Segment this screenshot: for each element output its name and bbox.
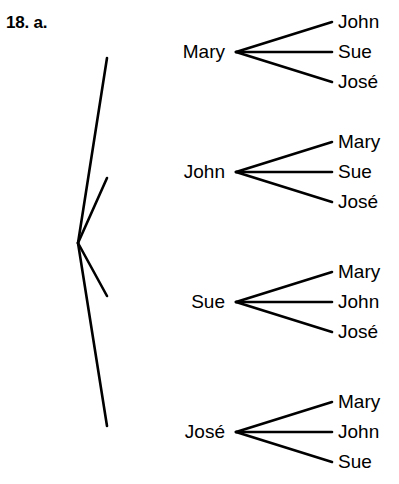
leaf-label-1-1: Sue [338,162,372,181]
level1-label-3: José [105,422,225,441]
branch-edge-1-0 [236,142,332,172]
branch-edge-1-2 [236,172,332,202]
branch-edge-2-0 [236,272,332,302]
leaf-label-0-0: John [338,12,379,31]
leaf-label-0-1: Sue [338,42,372,61]
leaf-label-3-0: Mary [338,392,380,411]
leaf-label-1-2: José [338,192,378,211]
leaf-label-3-1: John [338,422,379,441]
leaf-label-1-0: Mary [338,132,380,151]
branch-edge-3-0 [236,402,332,432]
level1-label-1: John [105,162,225,181]
root-edge-0 [78,58,107,243]
level1-label-0: Mary [105,42,225,61]
leaf-label-2-0: Mary [338,262,380,281]
leaf-label-2-1: John [338,292,379,311]
branch-edge-3-2 [236,432,332,462]
leaf-label-0-2: José [338,72,378,91]
level1-label-2: Sue [105,292,225,311]
branch-edge-2-2 [236,302,332,332]
permutation-tree-diagram: 18. a. MaryJohnSueJoséJohnMarySueJoséSue… [0,0,399,484]
branch-edge-0-0 [236,22,332,52]
branch-edge-0-2 [236,52,332,82]
leaf-label-3-2: Sue [338,452,372,471]
leaf-label-2-2: José [338,322,378,341]
